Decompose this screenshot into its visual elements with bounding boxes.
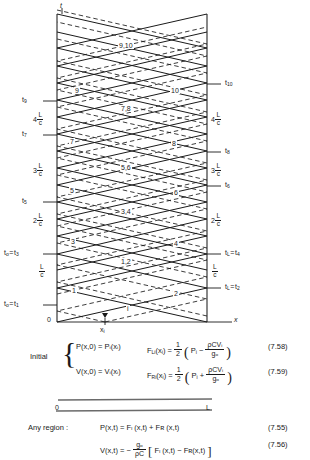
wave-label-10: 10 <box>170 87 180 94</box>
right-tick-4Lc: 4 Lc <box>211 112 221 127</box>
eqnum-7-55: (7.55) <box>268 424 288 432</box>
origin-label: 0 <box>47 316 51 323</box>
FRi-symbol: FRi(xi) = <box>147 371 173 380</box>
initial-row2-right: FRi(xi) = 12 ( Pi + ρCVᵢgₒ ) <box>147 366 232 385</box>
FLi-symbol: FLi(xi) = <box>147 346 172 355</box>
wave-label-7-8: 7,8 <box>120 105 132 112</box>
close-paren-2: ) <box>227 370 232 385</box>
one-half-2: 12 <box>175 366 183 382</box>
left-tick-t9: t9 <box>22 96 27 104</box>
axis-x-label: x <box>234 316 238 323</box>
any-region-eq2: V(x,t) = − gₒρC [ Fₗ (x,t) − Fʀ(x,t) ] <box>100 441 212 458</box>
xi-subscript: i <box>104 328 105 334</box>
initial-brace: { <box>62 338 76 368</box>
pipe-right-label: L <box>206 404 210 411</box>
left-tick-to-t1: to = t1 <box>4 300 19 308</box>
solid-characteristics <box>57 14 207 322</box>
left-tick-t7: t7 <box>22 130 27 138</box>
initial-row2-left: V(x,0) = Vᵢ(xᵢ) <box>76 368 121 376</box>
wave-label-1-2: 1,2 <box>120 258 132 265</box>
V-lead: V(x,t) = − <box>100 446 131 455</box>
right-tick-2Lc: 2 Lc <box>211 213 221 228</box>
open-paren-1: ( <box>184 345 189 360</box>
go-over-rhoC: gₒρC <box>133 441 146 457</box>
wave-label-8: 8 <box>171 140 177 147</box>
wave-label-3-4: 3,4 <box>120 208 132 215</box>
rhoCV-over-go-1: ρCVᵢgₒ <box>205 341 224 357</box>
any-region-label: Any region : <box>28 424 68 432</box>
wave-label-5-6: 5,6 <box>120 164 132 171</box>
pipe-schematic <box>56 399 212 411</box>
initial-row1-left: P(x,0) = Pᵢ(xᵢ) <box>76 343 121 351</box>
right-tick-3Lc: 3 Lc <box>211 163 221 178</box>
wave-label-2: 2 <box>173 290 179 297</box>
axis-t-label: t <box>60 2 62 9</box>
right-tick-tL-t4: tL = t4 <box>225 249 240 257</box>
right-tick-t10: t10 <box>225 79 233 87</box>
left-tick-marks <box>43 101 57 305</box>
eqnum-7-56: (7.56) <box>268 441 288 449</box>
close-paren-1: ) <box>226 345 231 360</box>
wave-label-6: 6 <box>173 189 179 196</box>
right-tick-t8: t8 <box>225 147 230 155</box>
left-tick-t5: t5 <box>22 197 27 205</box>
left-tick-to-t3: to = t3 <box>4 249 19 257</box>
left-tick-2Lc: 2 Lc <box>33 213 43 228</box>
eq2-body: Fₗ (x,t) − Fʀ(x,t) <box>155 446 206 455</box>
eqnum-7-59: (7.59) <box>268 368 288 376</box>
right-tick-tL-t2: tL = t2 <box>225 283 240 291</box>
dashed-characteristics <box>57 10 207 322</box>
rhoCV-over-go-2: ρCVᵢgₒ <box>206 366 225 382</box>
minus-sign: − <box>199 346 203 355</box>
xi-marker <box>102 313 108 325</box>
wave-label-5: 5 <box>69 187 75 194</box>
initial-row1-right: FLi(xi) = 12 ( Pi − ρCVᵢgₒ ) <box>147 341 231 360</box>
open-bracket: [ <box>148 444 152 459</box>
plus-sign: + <box>200 371 204 380</box>
wave-label-4: 4 <box>173 240 179 247</box>
left-tick-Lc: Lc <box>39 264 45 279</box>
one-half-1: 12 <box>174 341 182 357</box>
wave-label-i: i <box>126 305 130 312</box>
Pi-term-2: Pi <box>192 371 198 380</box>
left-tick-4Lc: 4 Lc <box>33 112 43 127</box>
wave-label-7: 7 <box>69 138 75 145</box>
pipe-left-label: 0 <box>55 404 59 411</box>
left-tick-3Lc: 3 Lc <box>33 163 43 178</box>
close-bracket: ] <box>207 444 211 459</box>
Pi-term-1: Pi <box>191 346 197 355</box>
any-region-eq1: P(x,t) = Fₗ (x,t) + Fʀ (x,t) <box>100 424 179 432</box>
open-paren-2: ( <box>185 370 190 385</box>
wave-label-9: 9 <box>74 87 80 94</box>
xi-label: xi <box>100 326 105 334</box>
wave-label-1: 1 <box>71 287 77 294</box>
eqnum-7-58: (7.58) <box>268 343 288 351</box>
lattice-diagram: .axisline{stroke:#6a6a6a;stroke-width:1.… <box>0 0 310 460</box>
right-tick-Lc: Lc <box>212 264 218 279</box>
initial-label: Initial <box>30 353 48 361</box>
right-tick-t6: t6 <box>225 181 230 189</box>
wave-label-3: 3 <box>70 238 76 245</box>
wave-label-9-10: 9,10 <box>118 42 134 49</box>
